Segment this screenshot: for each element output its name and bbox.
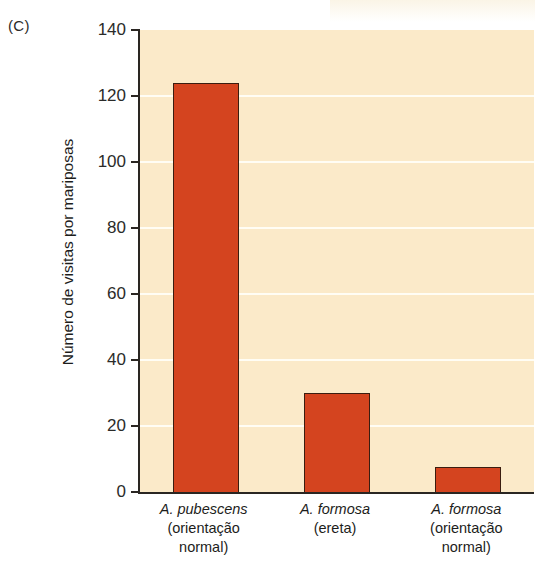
x-axis-species-name: A. pubescens: [138, 500, 269, 519]
y-axis-tick: [131, 293, 140, 295]
y-axis-tick: [131, 161, 140, 163]
x-axis-category-detail: normal): [138, 538, 269, 557]
x-axis-category-label: A. formosa(orientaçãonormal): [401, 500, 532, 557]
scan-artifact: [330, 0, 535, 22]
y-axis-tick-label: 0: [117, 482, 126, 502]
y-axis-tick: [131, 425, 140, 427]
panel-label: (C): [8, 17, 30, 34]
x-axis-label-group: A. pubescens(orientaçãonormal)A. formosa…: [138, 500, 532, 582]
y-axis-tick: [131, 491, 140, 493]
x-axis-category-detail: (ereta): [269, 519, 400, 538]
y-axis-tick: [131, 227, 140, 229]
plot-area: 020406080100120140: [138, 30, 534, 494]
bar: [173, 83, 239, 492]
bar: [435, 467, 501, 492]
y-axis-tick-label: 60: [107, 284, 126, 304]
x-axis-category-label: A. formosa(ereta): [269, 500, 400, 538]
y-axis-tick-label: 140: [98, 20, 126, 40]
x-axis-species-name: A. formosa: [269, 500, 400, 519]
x-axis-category-label: A. pubescens(orientaçãonormal): [138, 500, 269, 557]
y-axis-tick-label: 120: [98, 86, 126, 106]
x-axis-species-name: A. formosa: [401, 500, 532, 519]
y-axis-tick-label: 80: [107, 218, 126, 238]
y-axis-tick: [131, 29, 140, 31]
x-axis-category-detail: (orientação: [138, 519, 269, 538]
y-axis-tick-label: 20: [107, 416, 126, 436]
x-axis-category-detail: (orientação: [401, 519, 532, 538]
y-axis-tick: [131, 359, 140, 361]
y-axis-title: Número de visitas por mariposas: [59, 92, 77, 412]
y-axis-tick-label: 100: [98, 152, 126, 172]
y-axis-tick: [131, 95, 140, 97]
y-axis-tick-label: 40: [107, 350, 126, 370]
x-axis-category-detail: normal): [401, 538, 532, 557]
bar: [304, 393, 370, 492]
